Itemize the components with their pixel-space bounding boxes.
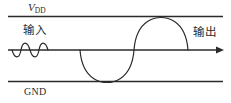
gnd-label: GND <box>24 87 47 97</box>
vdd-subscript: DD <box>35 6 46 15</box>
output-label: 输出 <box>193 27 216 39</box>
vdd-label: VDD <box>28 2 46 15</box>
vdd-symbol: V <box>28 1 35 13</box>
input-label: 输入 <box>23 25 46 37</box>
waveform-figure: VDD 输入 输出 GND <box>0 0 231 103</box>
axis-arrowhead-icon <box>216 47 224 54</box>
